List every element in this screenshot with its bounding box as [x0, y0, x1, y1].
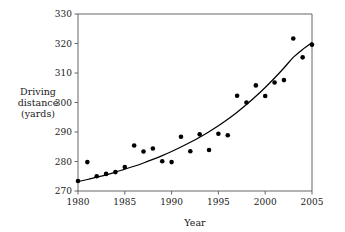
data-point [85, 160, 90, 165]
data-point [300, 55, 305, 60]
y-axis-title-line: distance [18, 97, 59, 108]
y-axis-title-line: Driving [20, 86, 56, 97]
data-point [272, 80, 277, 85]
data-point [113, 170, 118, 175]
data-point [310, 42, 315, 47]
data-point-group [76, 36, 315, 183]
data-point [160, 159, 165, 164]
data-point [225, 133, 230, 138]
axis-lines [78, 14, 312, 191]
y-axis-title: Drivingdistance(yards) [18, 86, 59, 119]
data-point [188, 149, 193, 154]
data-point [263, 94, 268, 99]
x-tick-label: 1995 [207, 197, 230, 207]
y-tick-label: 290 [55, 127, 72, 137]
data-point [132, 143, 137, 148]
chart-page: 270280290300310320330 198019851990199520… [0, 0, 345, 232]
driving-distance-scatter-chart: 270280290300310320330 198019851990199520… [0, 0, 345, 232]
data-point [169, 160, 174, 165]
plot-frame [78, 14, 312, 191]
data-point [244, 100, 249, 105]
y-axis-ticks [75, 14, 79, 191]
y-tick-label: 330 [55, 9, 72, 19]
data-point [216, 131, 221, 136]
data-point [94, 174, 99, 179]
y-axis-title-line: (yards) [21, 108, 55, 119]
y-tick-label: 270 [55, 186, 72, 196]
y-tick-label: 280 [55, 157, 72, 167]
y-tick-label: 320 [55, 39, 72, 49]
data-point [282, 78, 287, 83]
data-point [151, 146, 156, 151]
x-axis-ticks [78, 191, 312, 195]
x-axis-title-label: Year [183, 217, 206, 228]
data-point [104, 172, 109, 177]
x-tick-label: 2005 [301, 197, 324, 207]
x-tick-label: 1985 [113, 197, 136, 207]
data-point [141, 149, 146, 154]
data-point [235, 93, 240, 98]
x-tick-label: 1990 [160, 197, 183, 207]
x-axis-tick-labels: 198019851990199520002005 [67, 197, 324, 207]
data-point [76, 179, 81, 184]
y-tick-label: 310 [55, 68, 72, 78]
data-point [254, 83, 259, 88]
fitted-trend-curve [78, 43, 312, 182]
data-point [123, 165, 128, 170]
data-point [197, 132, 202, 137]
data-point [179, 134, 184, 139]
data-point [207, 148, 212, 153]
x-tick-label: 1980 [67, 197, 90, 207]
data-point [291, 36, 296, 41]
x-tick-label: 2000 [254, 197, 277, 207]
